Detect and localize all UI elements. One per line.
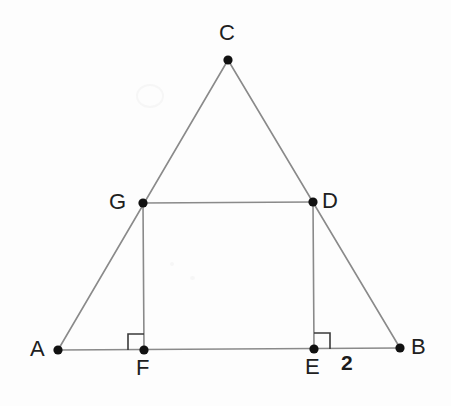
- vertex-label-d: D: [322, 190, 338, 212]
- length-label-eb: 2: [341, 352, 353, 373]
- vertex-point-a[interactable]: [53, 345, 62, 354]
- vertex-point-c[interactable]: [223, 55, 232, 64]
- segment-gd: [143, 202, 313, 203]
- vertex-label-f: F: [136, 357, 149, 379]
- vertex-label-g: G: [109, 191, 126, 213]
- vertex-points-group: [53, 55, 404, 354]
- vertex-label-a: A: [30, 338, 45, 360]
- vertex-label-c: C: [219, 22, 235, 44]
- segment-de: [313, 202, 314, 349]
- vertex-point-g[interactable]: [138, 198, 147, 207]
- figure-canvas: [0, 0, 451, 406]
- vertex-point-b[interactable]: [395, 343, 404, 352]
- vertex-point-e[interactable]: [309, 344, 318, 353]
- segment-ab: [58, 348, 400, 350]
- vertex-label-e: E: [305, 356, 320, 378]
- segment-gf: [143, 203, 144, 350]
- vertex-point-d[interactable]: [308, 197, 317, 206]
- geometry-figure: ABCDEFG 2: [0, 0, 451, 406]
- vertex-label-b: B: [411, 336, 426, 358]
- vertex-point-f[interactable]: [139, 345, 148, 354]
- right-angle-marks-group: [128, 333, 330, 350]
